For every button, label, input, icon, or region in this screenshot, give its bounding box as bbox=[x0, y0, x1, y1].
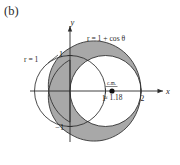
x-axis-label: x bbox=[165, 86, 170, 96]
figure-container: (b) bbox=[0, 0, 180, 165]
y-tick-label-1: 1 bbox=[59, 50, 63, 59]
x-axis-arrow bbox=[158, 89, 164, 93]
polar-plot: 1 −1 1 2 x y r = 1 + cos θ r = 1 c.m. ≈ … bbox=[0, 0, 180, 165]
cardioid-equation-label: r = 1 + cos θ bbox=[87, 34, 126, 43]
unit-circle-equation-label: r = 1 bbox=[24, 55, 39, 64]
y-tick-label-neg1: −1 bbox=[55, 123, 64, 132]
center-of-mass-value: ≈ 1.18 bbox=[104, 93, 123, 102]
x-tick-label-2: 2 bbox=[140, 94, 144, 103]
y-axis-label: y bbox=[70, 17, 75, 27]
center-of-mass-label: c.m. bbox=[107, 80, 116, 86]
y-axis-arrow bbox=[68, 26, 72, 32]
